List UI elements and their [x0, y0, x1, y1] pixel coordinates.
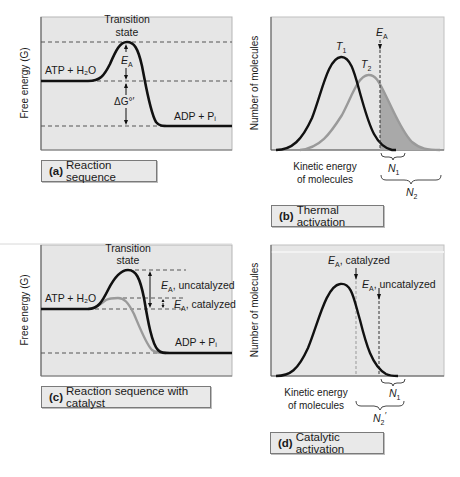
- transition-state-label-2: state: [117, 254, 140, 266]
- caption-c: (c)Reaction sequence with catalyst: [41, 386, 211, 408]
- ea-uncatalyzed-label: EA, uncatalyzed: [362, 278, 436, 292]
- transition-state-label-1: Transition: [105, 242, 151, 254]
- n1-label: N1: [389, 387, 401, 401]
- caption-b-letter: (b): [279, 210, 294, 222]
- x-axis-label-2: of molecules: [288, 400, 344, 411]
- n1-label: N1: [388, 162, 400, 176]
- n1-brace: [381, 379, 405, 386]
- panel-b: EA T1 T2 N1 N2 Kinetic energy of molecul…: [249, 17, 444, 200]
- caption-d: (d)Catalytic activation: [270, 432, 384, 454]
- delta-g-label: ΔG°′: [114, 96, 134, 107]
- caption-b-text: Thermal activation: [297, 204, 383, 228]
- reactant-label: ATP + H₂O: [45, 292, 96, 304]
- caption-c-text: Reaction sequence with catalyst: [66, 385, 210, 409]
- transition-state-label-1: Transition: [104, 13, 150, 25]
- x-axis-label-2: of molecules: [297, 174, 353, 185]
- n2-prime-label: N2′: [373, 410, 387, 426]
- transition-state-label-2: state: [116, 26, 139, 38]
- y-axis-label: Number of molecules: [249, 263, 260, 357]
- caption-a-letter: (a): [49, 165, 63, 177]
- y-axis-label: Free energy (G): [19, 274, 30, 345]
- caption-c-letter: (c): [49, 391, 63, 403]
- x-axis-label-1: Kinetic energy: [284, 387, 347, 398]
- caption-a: (a)Reaction sequence: [41, 160, 157, 182]
- product-label: ADP + Pᵢ: [174, 110, 216, 122]
- caption-d-text: Catalytic activation: [296, 431, 383, 455]
- caption-a-text: Reaction sequence: [66, 159, 156, 183]
- caption-d-letter: (d): [278, 437, 293, 449]
- reactant-label: ATP + H₂O: [45, 64, 96, 76]
- x-axis-label-1: Kinetic energy: [293, 161, 356, 172]
- product-label: ADP + Pᵢ: [175, 336, 217, 348]
- y-axis-label: Number of molecules: [249, 36, 260, 130]
- ea-uncatalyzed-label: EA, uncatalyzed: [161, 279, 235, 293]
- caption-b: (b)Thermal activation: [271, 205, 384, 227]
- panel-c: Transition state ATP + H₂O ADP + Pᵢ EA, …: [0, 242, 236, 376]
- y-axis-label: Free energy (G): [19, 47, 30, 118]
- panel-a: Transition state ATP + H₂O ADP + Pᵢ EA Δ…: [19, 13, 232, 150]
- n2-brace: [381, 175, 441, 184]
- n2-label: N2: [406, 186, 418, 200]
- n1-brace: [381, 153, 405, 160]
- panel-d: EA, catalyzed EA, uncatalyzed N1 N2′ Kin…: [249, 245, 444, 426]
- n2-prime-brace: [356, 401, 404, 410]
